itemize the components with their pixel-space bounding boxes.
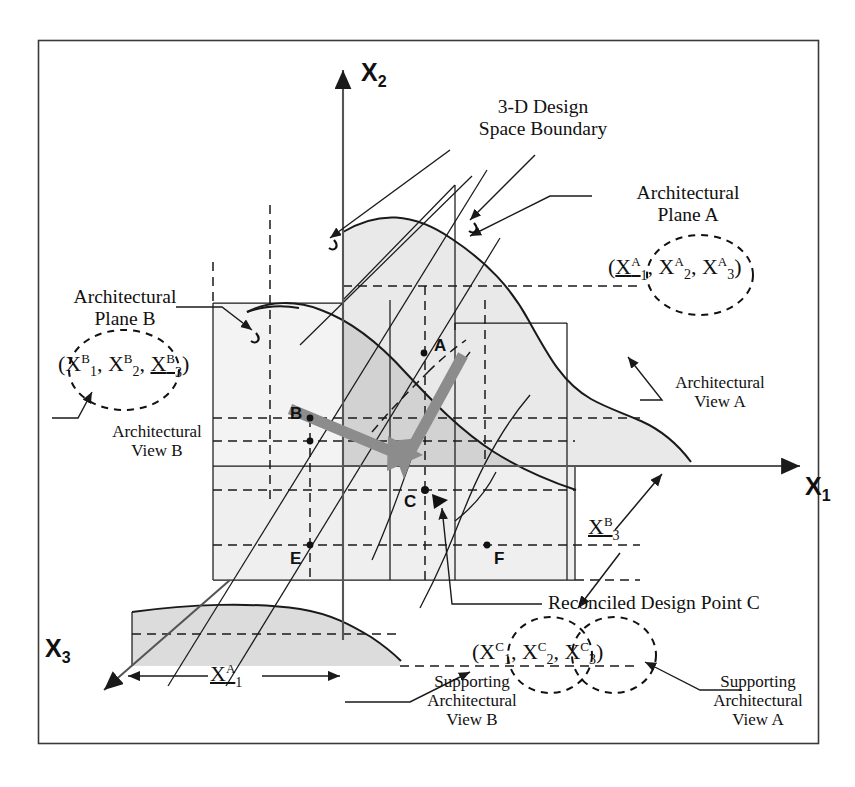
leader-boundary-right: [470, 155, 535, 220]
callout-plane-b-l1: Architectural: [45, 286, 205, 308]
tuple-b-t1: XB1: [65, 351, 97, 376]
callout-view-b-l1: Architectural: [82, 422, 232, 441]
callout-plane-b: Architectural Plane B: [45, 286, 205, 330]
dot-F: [484, 542, 491, 549]
point-label-E: E: [290, 549, 301, 568]
dim-label-xb3: XB3: [588, 515, 620, 543]
dot-A: [421, 350, 428, 357]
callout-space-boundary-l1: 3-D Design: [448, 96, 638, 118]
tuple-plane-b: (XB1, XB2, XB3): [58, 352, 189, 380]
callout-plane-a: Architectural Plane A: [598, 182, 778, 226]
tuple-a-t1: XA: [615, 254, 640, 279]
point-label-A: A: [434, 336, 446, 355]
callout-supporting-view-a: Supporting Architectural View A: [678, 672, 838, 729]
callout-supporting-b-l1: Supporting: [392, 672, 552, 691]
callout-space-boundary-l2: Space Boundary: [448, 118, 638, 140]
tuple-c-t2: XC2: [522, 639, 554, 664]
dot-B: [307, 415, 314, 422]
axis-label-x1: X1: [805, 472, 831, 505]
tuple-b-t3: XB: [150, 351, 175, 376]
axis-label-x2: X2: [361, 58, 387, 91]
callout-plane-a-l2: Plane A: [598, 204, 778, 226]
dot-B2: [307, 438, 314, 445]
axis-label-x3: X3: [45, 634, 71, 667]
surface-x3-base: [132, 605, 400, 666]
callout-reconciled-point-c: Reconciled Design Point C: [548, 592, 828, 614]
point-label-B: B: [290, 404, 302, 423]
tuple-b-t2: XB2: [108, 351, 140, 376]
dim-xb3-upper: [615, 474, 662, 530]
tuple-a-t3: XA3: [702, 254, 734, 279]
point-label-F: F: [494, 549, 504, 568]
callout-view-b: Architectural View B: [82, 422, 232, 460]
diagram-canvas: X2 X1 X3 3-D Design Space Boundary Archi…: [0, 0, 855, 787]
callout-supporting-b-l2: Architectural: [392, 691, 552, 710]
tuple-a-t2: XA2: [659, 254, 691, 279]
callout-supporting-b-l3: View B: [392, 710, 552, 729]
callout-space-boundary: 3-D Design Space Boundary: [448, 96, 638, 140]
callout-supporting-a-l3: View A: [678, 710, 838, 729]
callout-view-a-l2: View A: [645, 392, 795, 411]
dim-label-xa1: XA1: [210, 662, 242, 690]
callout-plane-a-l1: Architectural: [598, 182, 778, 204]
callout-view-a: Architectural View A: [645, 373, 795, 411]
callout-supporting-a-l1: Supporting: [678, 672, 838, 691]
tuple-c-t3: XC3: [564, 639, 596, 664]
callout-view-b-l2: View B: [82, 441, 232, 460]
tuple-c-t1: XC1: [479, 639, 511, 664]
tuple-plane-a: (XA1, XA2, XA3): [608, 255, 742, 283]
surface-floor-plate: [213, 466, 575, 580]
point-label-C: C: [404, 492, 416, 511]
dot-E: [307, 542, 314, 549]
callout-supporting-a-l2: Architectural: [678, 691, 838, 710]
tuple-point-c: (XC1, XC2, XC3): [472, 640, 603, 668]
callout-view-a-l1: Architectural: [645, 373, 795, 392]
dot-C: [421, 486, 429, 494]
callout-plane-b-l2: Plane B: [45, 308, 205, 330]
callout-supporting-view-b: Supporting Architectural View B: [392, 672, 552, 729]
leader-view-b: [52, 392, 92, 418]
